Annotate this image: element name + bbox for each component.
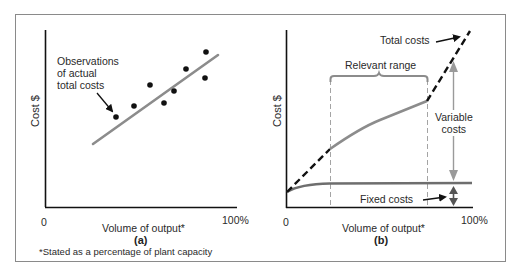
total-costs-dashed-upper [427, 31, 470, 101]
panel-a-x-axis-label: Volume of output* [102, 222, 185, 234]
fixed-costs-curve [287, 183, 472, 192]
total-costs-relevant-range [330, 101, 427, 149]
observation-dots [113, 49, 209, 120]
observations-arrow [97, 93, 112, 111]
relevant-range-guides [331, 80, 428, 207]
panel-b-y-axis-label: Cost $ [271, 95, 283, 127]
footnote: *Stated as a percentage of plant capacit… [39, 246, 212, 257]
observations-label: Observations of actual total costs [57, 55, 119, 91]
panel-b-x-axis-label: Volume of output* [342, 222, 425, 234]
panel-b-x-max: 100% [461, 214, 488, 226]
figure-graphics [0, 0, 521, 280]
relevant-range-brace [331, 73, 428, 82]
total-costs-arrow [436, 37, 459, 42]
panel-b-id: (b) [374, 234, 388, 246]
fixed-costs-label-arrow [423, 197, 445, 200]
total-costs-label: Total costs [380, 34, 430, 46]
panel-b-x-min: 0 [283, 216, 289, 228]
fixed-costs-arrow [449, 186, 458, 206]
panel-a-x-max: 100% [222, 214, 249, 226]
panel-a-y-axis-label: Cost $ [29, 95, 41, 127]
fixed-costs-label: Fixed costs [360, 193, 413, 205]
panel-a-x-min: 0 [41, 216, 47, 228]
variable-costs-label: Variable costs [435, 110, 473, 136]
panel-a-id: (a) [134, 234, 147, 246]
relevant-range-label: Relevant range [345, 59, 416, 71]
